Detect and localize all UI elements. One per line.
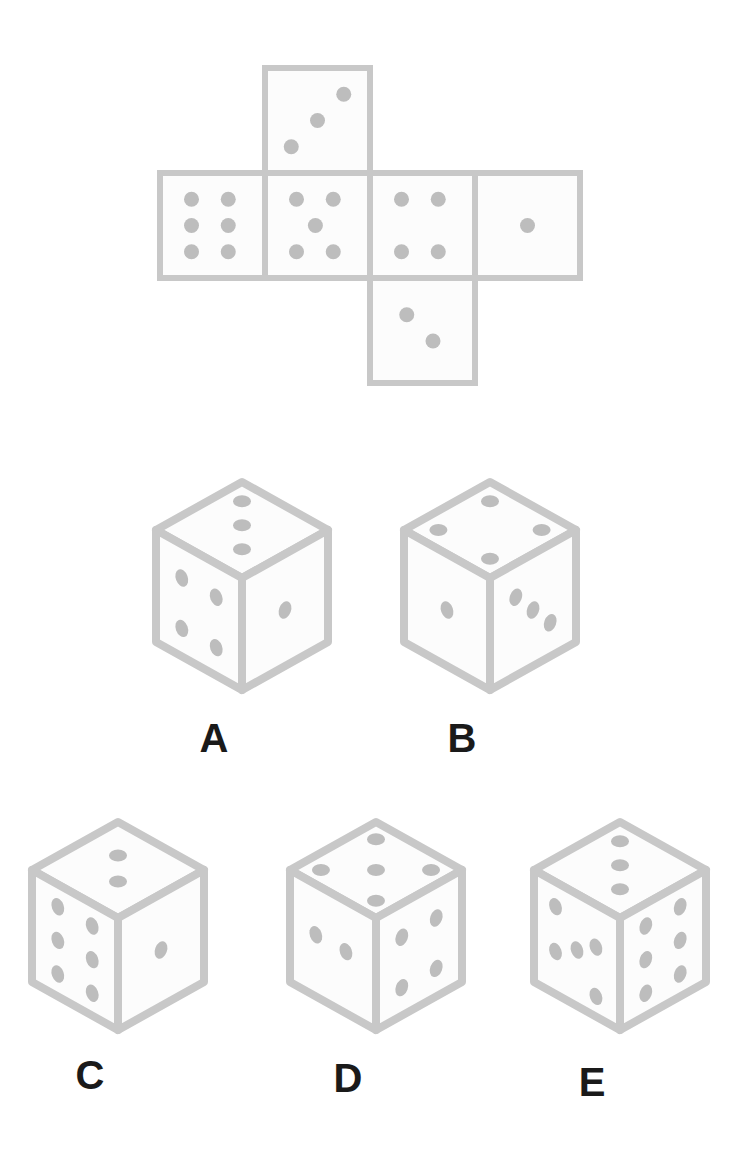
cube-net: [160, 68, 580, 383]
pip: [426, 334, 441, 349]
pip: [326, 244, 341, 259]
pip: [429, 524, 447, 536]
pip: [367, 833, 385, 845]
net-face-center: [265, 173, 370, 278]
pip: [109, 850, 127, 862]
option-e-cube[interactable]: [534, 822, 706, 1030]
net-face-top: [265, 68, 370, 173]
pip: [221, 218, 236, 233]
pip: [221, 244, 236, 259]
option-label-b[interactable]: B: [448, 718, 477, 758]
pip: [481, 495, 499, 507]
pip: [422, 864, 440, 876]
pip: [431, 244, 446, 259]
net-face-bottom: [370, 278, 475, 383]
pip: [611, 835, 629, 847]
option-label-d[interactable]: D: [334, 1058, 363, 1098]
pip: [481, 553, 499, 565]
option-d-cube[interactable]: [290, 822, 462, 1030]
answer-options: [32, 482, 706, 1030]
pip: [308, 218, 323, 233]
option-label-e[interactable]: E: [579, 1062, 606, 1102]
option-label-a[interactable]: A: [200, 718, 229, 758]
pip: [533, 524, 551, 536]
pip: [367, 864, 385, 876]
pip: [336, 87, 351, 102]
pip: [184, 244, 199, 259]
pip: [394, 192, 409, 207]
pip: [520, 218, 535, 233]
pip: [221, 192, 236, 207]
option-c-cube[interactable]: [32, 822, 204, 1030]
option-label-c[interactable]: C: [76, 1055, 105, 1095]
pip: [611, 883, 629, 895]
net-face-far-right: [475, 173, 580, 278]
pip: [184, 218, 199, 233]
pip: [233, 519, 251, 531]
pip: [367, 895, 385, 907]
pip: [284, 139, 299, 154]
pip: [312, 864, 330, 876]
pip: [233, 543, 251, 555]
pip: [184, 192, 199, 207]
pip: [611, 859, 629, 871]
net-face-right: [370, 173, 475, 278]
pip: [431, 192, 446, 207]
puzzle-canvas: [0, 0, 756, 1171]
option-b-cube[interactable]: [404, 482, 576, 690]
option-a-cube[interactable]: [156, 482, 328, 690]
pip: [233, 495, 251, 507]
pip: [289, 244, 304, 259]
pip: [310, 113, 325, 128]
pip: [109, 876, 127, 888]
pip: [289, 192, 304, 207]
pip: [326, 192, 341, 207]
pip: [399, 307, 414, 322]
net-face-left: [160, 173, 265, 278]
pip: [394, 244, 409, 259]
